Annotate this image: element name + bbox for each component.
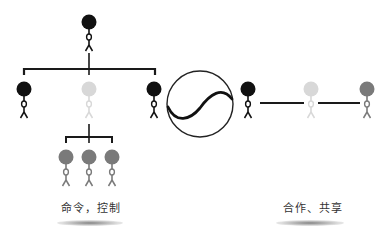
collaboration-label: 合作、共享 bbox=[283, 199, 343, 215]
hierarchy-label: 命令，控制 bbox=[61, 199, 121, 215]
worker-figure bbox=[59, 150, 74, 187]
hierarchy-label-shadow bbox=[57, 220, 123, 226]
hierarchy-diagram bbox=[17, 15, 162, 187]
manager-figure bbox=[17, 82, 32, 119]
worker-figure bbox=[105, 150, 120, 187]
peer-figure bbox=[241, 82, 256, 119]
manager-figure bbox=[147, 82, 162, 119]
collaboration-diagram bbox=[241, 82, 375, 119]
collaboration-label-shadow bbox=[276, 220, 344, 226]
transition-symbol-icon bbox=[167, 71, 233, 137]
worker-figure bbox=[82, 150, 97, 187]
manager-figure bbox=[82, 82, 97, 119]
peer-figure bbox=[360, 82, 375, 119]
peer-figure bbox=[304, 82, 319, 119]
leader-figure bbox=[82, 15, 97, 52]
